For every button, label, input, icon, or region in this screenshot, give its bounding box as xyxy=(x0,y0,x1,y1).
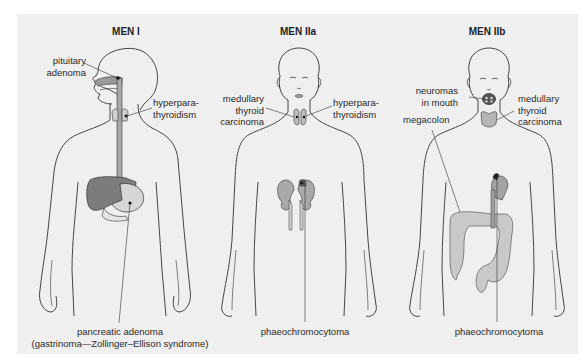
panel-title-men1: MEN I xyxy=(96,26,156,37)
men-syndromes-illustration xyxy=(0,0,587,364)
label-pancreatic-adenoma: pancreatic adenoma (gastrinoma—Zollinger… xyxy=(30,326,210,349)
men1-figure xyxy=(39,48,190,323)
label-phaeochromocytoma-men2a: phaeochromocytoma xyxy=(250,326,360,338)
label-medullary-thyroid-carcinoma-men2b: medullary thyroid carcinoma xyxy=(518,93,578,128)
label-line: neuromas xyxy=(404,85,458,97)
label-medullary-thyroid-carcinoma-men2a: medullary thyroid carcinoma xyxy=(210,93,264,128)
label-line: thyroid xyxy=(518,105,578,117)
label-line: carcinoma xyxy=(210,116,264,128)
label-line: pituitary xyxy=(34,55,86,67)
label-neuromas-in-mouth: neuromas in mouth xyxy=(404,85,458,108)
label-line: carcinoma xyxy=(518,116,578,128)
label-line: (gastrinoma—Zollinger–Ellison syndrome) xyxy=(30,338,210,350)
label-line: medullary xyxy=(518,93,578,105)
panel-title-men2a: MEN IIa xyxy=(268,26,328,37)
label-line: thyroidism xyxy=(333,109,403,121)
label-phaeochromocytoma-men2b: phaeochromocytoma xyxy=(444,326,554,338)
label-line: hyperpara- xyxy=(333,97,403,109)
label-line: in mouth xyxy=(404,97,458,109)
label-line: pancreatic adenoma xyxy=(30,326,210,338)
label-hyperparathyroidism-men2a: hyperpara- thyroidism xyxy=(333,97,403,120)
label-line: thyroid xyxy=(210,105,264,117)
label-line: medullary xyxy=(210,93,264,105)
label-line: adenoma xyxy=(34,67,86,79)
label-pituitary-adenoma: pituitary adenoma xyxy=(34,55,86,78)
men2a-figure xyxy=(222,48,377,322)
label-megacolon: megacolon xyxy=(403,114,463,126)
panel-title-men2b: MEN IIb xyxy=(452,26,522,37)
